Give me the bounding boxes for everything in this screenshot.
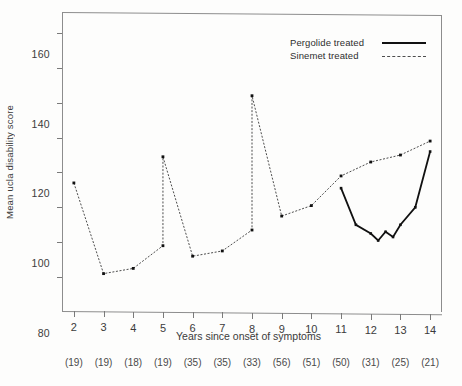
data-point-marker [280, 215, 283, 218]
x-tick-count-label: (19) [154, 357, 172, 368]
x-tick-count-label: (35) [184, 357, 202, 368]
x-tick-label: 3 [101, 321, 107, 333]
series-line-sinemet [74, 96, 430, 274]
x-tick-count-label: (35) [213, 357, 231, 368]
data-point-marker [429, 140, 432, 143]
data-point-marker [162, 155, 165, 158]
data-point-marker [384, 230, 387, 233]
data-point-marker [132, 267, 135, 270]
legend-label-pergolide: Pergolide treated [290, 37, 378, 48]
x-tick-mark [311, 313, 312, 319]
y-tick-label: 80 [38, 327, 50, 339]
data-point-marker [399, 223, 402, 226]
data-point-marker [251, 229, 254, 232]
x-tick-mark [341, 313, 342, 319]
data-point-marker [340, 175, 343, 178]
x-tick-count-label: (19) [95, 357, 113, 368]
x-tick-mark [222, 312, 223, 318]
data-point-marker [399, 154, 402, 157]
data-point-marker [369, 161, 372, 164]
data-point-marker [414, 206, 417, 209]
x-tick-count-label: (56) [273, 357, 291, 368]
x-tick-mark [133, 312, 134, 318]
data-point-marker [72, 182, 75, 185]
data-point-marker [102, 272, 105, 275]
y-tick-label: 120 [32, 187, 50, 199]
x-tick-label: 5 [160, 322, 166, 334]
x-tick-count-label: (25) [392, 357, 410, 368]
legend-item-sinemet: Sinemet treated [290, 49, 426, 62]
x-tick-mark [282, 313, 283, 319]
x-tick-mark [252, 313, 253, 319]
x-tick-label: 2 [71, 321, 77, 333]
x-tick-mark [163, 312, 164, 318]
y-tick-label: 100 [32, 257, 50, 269]
legend-swatch-solid-icon [378, 39, 426, 47]
x-tick-count-label: (50) [332, 357, 350, 368]
data-point-marker [377, 239, 380, 242]
legend-label-sinemet: Sinemet treated [290, 50, 378, 61]
data-point-marker [310, 204, 313, 207]
x-tick-label: 13 [394, 324, 406, 336]
data-point-marker [340, 187, 343, 190]
x-tick-count-label: (19) [65, 357, 83, 368]
legend-swatch-dashed-icon [378, 52, 426, 60]
x-tick-count-label: (18) [124, 357, 142, 368]
x-tick-label: 14 [424, 324, 436, 336]
data-point-marker [369, 232, 372, 235]
x-tick-label: 11 [335, 323, 346, 335]
y-axis-title: Mean ucla disability score [4, 105, 18, 219]
y-tick-label: 140 [32, 118, 50, 130]
x-tick-mark [400, 314, 401, 320]
x-tick-label: 4 [130, 322, 136, 334]
data-point-marker [251, 94, 254, 97]
x-tick-mark [193, 312, 194, 318]
y-tick-label: 160 [32, 48, 50, 60]
data-point-marker [191, 255, 194, 258]
chart-figure: 20406080100120140160 2(19)3(19)4(18)5(19… [0, 0, 462, 386]
x-tick-count-label: (31) [362, 357, 380, 368]
x-tick-mark [371, 314, 372, 320]
x-axis-title: Years since onset of symptoms [176, 330, 321, 342]
data-point-marker [221, 250, 224, 253]
x-tick-mark [430, 314, 431, 320]
data-point-marker [392, 236, 395, 239]
x-tick-mark [104, 311, 105, 317]
x-tick-label: 12 [365, 324, 377, 336]
x-tick-count-label: (33) [243, 357, 261, 368]
x-tick-count-label: (51) [302, 357, 320, 368]
series-line-pergolide [341, 152, 430, 241]
x-tick-count-label: (21) [421, 357, 439, 368]
data-point-marker [355, 223, 358, 226]
chart-legend: Pergolide treated Sinemet treated [290, 36, 426, 62]
legend-item-pergolide: Pergolide treated [290, 36, 426, 49]
data-point-marker [429, 150, 432, 153]
data-point-marker [162, 244, 165, 247]
